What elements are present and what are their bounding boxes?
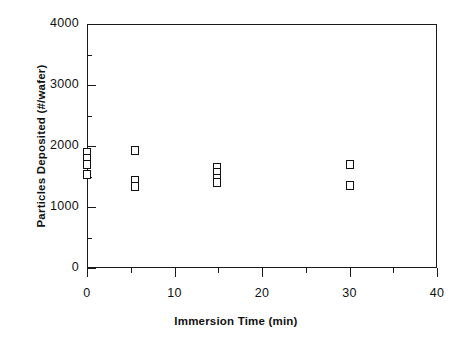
data-point-marker <box>131 146 139 155</box>
x-tick-minor <box>393 268 394 273</box>
x-tick-minor <box>218 268 219 273</box>
x-tick-major <box>175 268 176 277</box>
plot-frame <box>87 24 437 268</box>
scatter-chart: 01000200030004000010203040 Immersion Tim… <box>0 0 472 342</box>
x-tick-minor <box>131 268 132 273</box>
x-tick-major <box>262 268 263 277</box>
x-tick-minor <box>306 268 307 273</box>
x-tick-major <box>350 268 351 277</box>
x-tick-major <box>87 268 88 277</box>
y-tick-label: 4000 <box>19 16 79 30</box>
y-tick-label: 1000 <box>19 199 79 213</box>
y-tick-label: 2000 <box>19 138 79 152</box>
y-tick-minor <box>87 238 92 239</box>
y-tick-label: 0 <box>19 260 79 274</box>
y-tick-minor <box>87 55 92 56</box>
data-point-marker <box>346 181 354 190</box>
y-tick-major <box>87 24 96 25</box>
x-tick-major <box>437 268 438 277</box>
y-tick-major <box>87 268 96 269</box>
y-tick-minor <box>87 116 92 117</box>
data-point-marker <box>131 182 139 191</box>
x-tick-label: 20 <box>232 286 292 300</box>
data-point-marker <box>83 170 91 179</box>
x-axis-title: Immersion Time (min) <box>0 315 472 327</box>
y-tick-major <box>87 85 96 86</box>
y-tick-major <box>87 146 96 147</box>
y-axis-title: Particles Deposited (#/wafer) <box>35 26 47 266</box>
y-tick-major <box>87 207 96 208</box>
x-tick-label: 40 <box>407 286 467 300</box>
x-tick-label: 10 <box>145 286 205 300</box>
y-tick-label: 3000 <box>19 77 79 91</box>
data-point-marker <box>346 160 354 169</box>
x-tick-label: 30 <box>320 286 380 300</box>
data-point-marker <box>83 160 91 169</box>
data-point-marker <box>213 178 221 187</box>
x-tick-label: 0 <box>57 286 117 300</box>
